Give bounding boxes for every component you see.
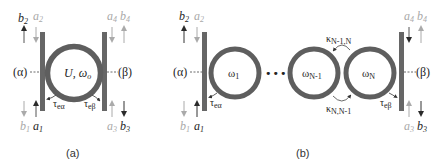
label-b4: b4 [120, 9, 130, 24]
label-b1: b1 [20, 119, 30, 134]
decay-arrow-beta [92, 95, 99, 100]
coupling-arrow-bottom [333, 96, 350, 101]
panel-b: ••• b2 a2 a4 b4 b1 a1 a3 b3 (α) (β) ω1 ω… [173, 9, 430, 159]
label-a2: a2 [33, 9, 43, 24]
label-b3: b3 [120, 119, 130, 134]
port-alpha-label: (α) [173, 65, 187, 79]
coupling-top-label: κN-1,N [326, 33, 351, 46]
ring-label: U, ωo [64, 66, 91, 81]
ellipsis: ••• [265, 67, 287, 80]
label-a3: a3 [404, 119, 414, 134]
ring-1-label: ω1 [228, 67, 239, 81]
caption-b: (b) [296, 147, 309, 159]
label-a4: a4 [107, 9, 117, 24]
label-b4: b4 [417, 9, 427, 24]
port-alpha-label: (α) [13, 65, 27, 79]
label-a1: a1 [33, 119, 43, 134]
left-waveguide [40, 32, 45, 111]
ring-n-minus-1-label: ωN-1 [302, 67, 322, 81]
left-waveguide [202, 32, 207, 111]
port-beta-label: (β) [416, 65, 430, 79]
tau-e-beta: τeβ [380, 97, 392, 110]
label-b1: b1 [180, 119, 190, 134]
label-a1: a1 [194, 119, 204, 134]
coupling-bottom-label: κN,N-1 [326, 103, 351, 116]
port-beta-label: (β) [118, 65, 132, 79]
label-a2: a2 [194, 9, 204, 24]
label-a4: a4 [404, 9, 414, 24]
tau-e-beta: τeβ [84, 98, 96, 111]
ring-n-label: ωN [362, 67, 375, 81]
label-a3: a3 [107, 119, 117, 134]
label-b3: b3 [417, 119, 427, 134]
label-b2: b2 [18, 11, 28, 26]
right-waveguide [399, 32, 404, 111]
decay-arrow-beta [389, 93, 396, 97]
panel-a: b2 a2 a4 b4 b1 a1 a3 b3 (α) (β) U, ωo τe… [13, 9, 132, 159]
coupled-resonator-diagram: b2 a2 a4 b4 b1 a1 a3 b3 (α) (β) U, ωo τe… [0, 0, 444, 164]
caption-a: (a) [66, 147, 79, 159]
tau-e-alpha: τeα [210, 97, 223, 110]
label-b2: b2 [179, 9, 189, 24]
